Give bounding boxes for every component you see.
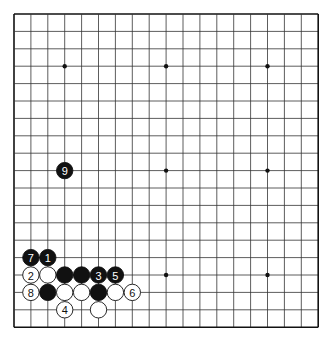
black-stone[interactable] (40, 284, 56, 300)
star-point-icon (164, 168, 168, 172)
go-board[interactable]: 712358649 (0, 0, 327, 339)
move-number-label: 4 (62, 304, 68, 316)
move-number-label: 7 (28, 252, 34, 264)
star-point-icon (164, 273, 168, 277)
black-stone[interactable]: 3 (90, 267, 106, 283)
black-stone[interactable] (73, 267, 89, 283)
white-stone[interactable]: 4 (56, 302, 72, 318)
stone-circle-icon (40, 284, 56, 300)
black-stone[interactable]: 1 (40, 249, 56, 265)
black-stone[interactable]: 5 (107, 267, 123, 283)
star-point-icon (265, 64, 269, 68)
stone-circle-icon (73, 267, 89, 283)
move-number-label: 3 (95, 270, 101, 282)
star-point-icon (265, 168, 269, 172)
move-number-label: 9 (62, 165, 68, 177)
white-stone[interactable] (73, 284, 89, 300)
stone-circle-icon (107, 284, 123, 300)
white-stone[interactable]: 6 (124, 284, 140, 300)
move-number-label: 6 (129, 287, 135, 299)
white-stone[interactable]: 8 (23, 284, 39, 300)
stone-circle-icon (90, 284, 106, 300)
stone-circle-icon (56, 284, 72, 300)
white-stone[interactable] (40, 267, 56, 283)
star-point-icon (265, 273, 269, 277)
star-point-icon (62, 64, 66, 68)
black-stone[interactable] (56, 267, 72, 283)
move-number-label: 2 (28, 270, 34, 282)
black-stone[interactable] (90, 284, 106, 300)
move-number-label: 8 (28, 287, 34, 299)
move-number-label: 5 (112, 270, 118, 282)
white-stone[interactable] (107, 284, 123, 300)
star-point-icon (164, 64, 168, 68)
stone-circle-icon (90, 302, 106, 318)
white-stone[interactable] (56, 284, 72, 300)
white-stone[interactable]: 2 (23, 267, 39, 283)
stone-circle-icon (40, 267, 56, 283)
white-stone[interactable] (90, 302, 106, 318)
stone-circle-icon (73, 284, 89, 300)
black-stone[interactable]: 7 (23, 249, 39, 265)
stone-circle-icon (56, 267, 72, 283)
black-stone[interactable]: 9 (56, 162, 72, 178)
move-number-label: 1 (45, 252, 51, 264)
